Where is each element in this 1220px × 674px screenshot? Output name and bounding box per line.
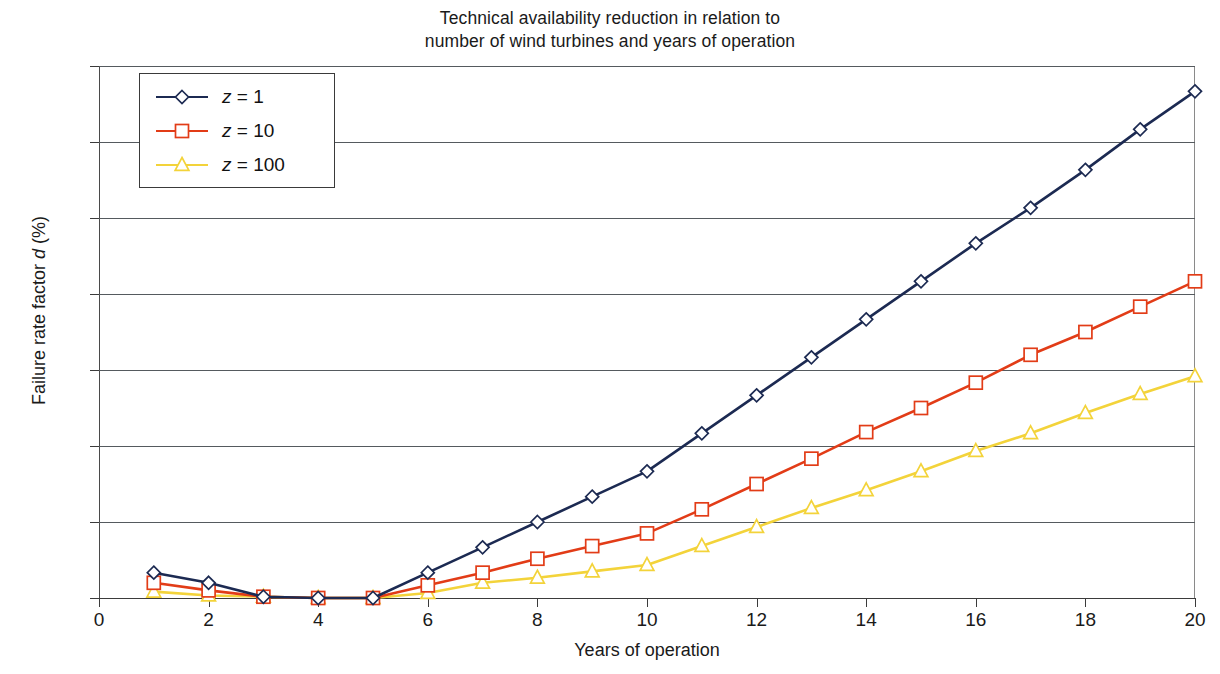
x-tick-label-0: 0 bbox=[69, 609, 129, 631]
legend-label: z = 1 bbox=[222, 86, 264, 108]
x-axis-title: Years of operation bbox=[99, 640, 1195, 661]
y-tick-mark-9 bbox=[90, 370, 99, 371]
legend-marker-icon bbox=[172, 155, 192, 175]
x-tick-mark-0 bbox=[99, 598, 100, 607]
series-z-100 bbox=[147, 369, 1202, 604]
data-point-marker bbox=[805, 452, 818, 465]
x-tick-mark-20 bbox=[1195, 598, 1196, 607]
data-point-marker bbox=[695, 503, 708, 516]
data-point-marker bbox=[641, 527, 654, 540]
legend-label: z = 10 bbox=[222, 120, 274, 142]
legend-key-square-icon bbox=[154, 120, 210, 142]
legend-key-diamond-icon bbox=[154, 86, 210, 108]
y-axis-title-pre: Failure rate factor bbox=[29, 259, 49, 405]
x-tick-label-8: 8 bbox=[507, 609, 567, 631]
data-point-marker bbox=[531, 552, 544, 565]
x-tick-label-16: 16 bbox=[946, 609, 1006, 631]
y-axis-title: Failure rate factor d (%) bbox=[29, 76, 50, 546]
legend-label: z = 100 bbox=[222, 154, 285, 176]
data-point-marker bbox=[1189, 275, 1202, 288]
y-axis-title-symbol: d bbox=[29, 249, 49, 259]
data-point-marker bbox=[1079, 326, 1092, 339]
x-tick-label-18: 18 bbox=[1055, 609, 1115, 631]
data-point-marker bbox=[1024, 348, 1037, 361]
data-point-marker bbox=[860, 426, 873, 439]
y-tick-mark-6 bbox=[90, 446, 99, 447]
x-tick-mark-10 bbox=[647, 598, 648, 607]
legend-label-value: = 10 bbox=[232, 120, 275, 141]
y-tick-mark-21 bbox=[90, 66, 99, 67]
y-tick-mark-15 bbox=[90, 218, 99, 219]
data-point-marker bbox=[750, 478, 763, 491]
legend-marker-icon bbox=[172, 87, 192, 107]
legend-label-symbol: z bbox=[222, 120, 232, 141]
data-point-marker bbox=[586, 540, 599, 553]
legend-marker-icon bbox=[172, 121, 192, 141]
data-point-marker bbox=[476, 566, 489, 579]
x-tick-label-6: 6 bbox=[398, 609, 458, 631]
x-tick-label-12: 12 bbox=[727, 609, 787, 631]
series-line bbox=[154, 281, 1195, 598]
data-point-marker bbox=[915, 402, 928, 415]
x-tick-mark-6 bbox=[428, 598, 429, 607]
x-tick-label-20: 20 bbox=[1165, 609, 1220, 631]
legend-key-triangle-icon bbox=[154, 154, 210, 176]
data-point-marker bbox=[1134, 300, 1147, 313]
y-axis-title-post: (%) bbox=[29, 216, 49, 249]
chart-legend: z = 1z = 10z = 100 bbox=[139, 73, 335, 188]
x-tick-label-10: 10 bbox=[617, 609, 677, 631]
data-point-marker bbox=[586, 490, 599, 503]
chart-figure: Technical availability reduction in rela… bbox=[0, 0, 1220, 674]
legend-label-symbol: z bbox=[222, 154, 232, 175]
data-point-marker bbox=[421, 579, 434, 592]
y-tick-mark-3 bbox=[90, 522, 99, 523]
y-tick-mark-12 bbox=[90, 294, 99, 295]
legend-label-value: = 100 bbox=[232, 154, 285, 175]
legend-item-1[interactable]: z = 10 bbox=[140, 114, 334, 148]
data-point-marker bbox=[1188, 369, 1202, 382]
x-tick-mark-16 bbox=[976, 598, 977, 607]
y-tick-mark-18 bbox=[90, 142, 99, 143]
data-point-marker bbox=[969, 376, 982, 389]
legend-item-0[interactable]: z = 1 bbox=[140, 80, 334, 114]
data-point-marker bbox=[476, 541, 489, 554]
x-tick-label-14: 14 bbox=[836, 609, 896, 631]
chart-title: Technical availability reduction in rela… bbox=[0, 7, 1220, 53]
x-tick-mark-8 bbox=[537, 598, 538, 607]
x-tick-mark-18 bbox=[1085, 598, 1086, 607]
x-tick-label-4: 4 bbox=[288, 609, 348, 631]
y-tick-mark-0 bbox=[90, 598, 99, 599]
legend-label-symbol: z bbox=[222, 86, 232, 107]
data-point-marker bbox=[421, 566, 434, 579]
legend-item-2[interactable]: z = 100 bbox=[140, 148, 334, 182]
legend-label-value: = 1 bbox=[232, 86, 264, 107]
x-tick-mark-12 bbox=[757, 598, 758, 607]
series-line bbox=[154, 376, 1195, 598]
data-point-marker bbox=[531, 516, 544, 529]
x-tick-mark-14 bbox=[866, 598, 867, 607]
x-tick-label-2: 2 bbox=[179, 609, 239, 631]
